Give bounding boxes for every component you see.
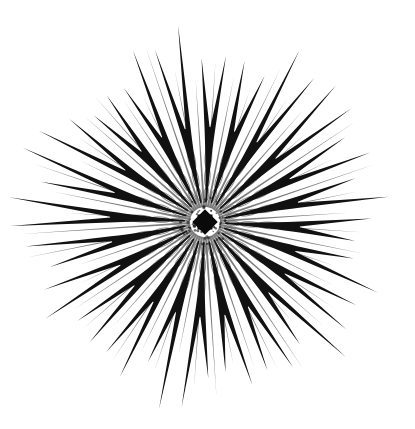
lattice-speckle: [225, 220, 227, 222]
lattice-speckle: [196, 229, 199, 232]
lattice-speckle: [219, 221, 222, 224]
core-square-inner: [198, 215, 213, 230]
lattice-speckle: [197, 211, 199, 213]
lattice-speckle: [198, 210, 200, 212]
lattice-speckle: [202, 205, 205, 208]
lattice-speckle: [191, 201, 193, 203]
lattice-speckle: [212, 231, 214, 233]
lattice-speckle: [215, 227, 217, 229]
lattice-speckle: [210, 210, 212, 212]
lattice-speckle: [190, 211, 193, 214]
lattice-speckle: [204, 237, 206, 239]
lattice-speckle: [219, 226, 221, 228]
lattice-speckle: [222, 217, 224, 219]
lattice-speckle: [220, 210, 222, 212]
lattice-speckle: [194, 229, 197, 232]
lattice-speckle: [206, 243, 208, 245]
starburst-artwork: [0, 0, 415, 429]
lattice-speckle: [188, 230, 191, 233]
lattice-speckle: [181, 229, 184, 232]
lattice-speckle: [218, 232, 220, 234]
lattice-speckle: [209, 197, 211, 199]
lattice-speckle: [189, 219, 191, 221]
lattice-speckle: [216, 238, 219, 241]
lattice-speckle: [189, 227, 191, 229]
lattice-speckle: [215, 213, 217, 215]
lattice-speckle: [187, 221, 190, 224]
lattice-speckle: [218, 217, 220, 219]
